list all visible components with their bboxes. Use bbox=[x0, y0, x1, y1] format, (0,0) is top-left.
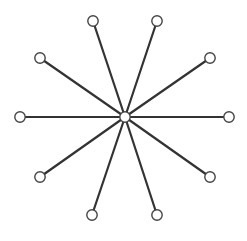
node-leaf-8 bbox=[35, 172, 45, 182]
node-leaf-5 bbox=[205, 172, 215, 182]
node-leaf-2 bbox=[152, 16, 162, 26]
node-leaf-3 bbox=[205, 53, 215, 63]
node-leaf-10 bbox=[35, 53, 45, 63]
node-leaf-1 bbox=[88, 16, 98, 26]
star-graph-diagram bbox=[0, 0, 247, 241]
node-leaf-7 bbox=[87, 210, 97, 220]
node-leaf-6 bbox=[152, 210, 162, 220]
node-leaf-4 bbox=[224, 112, 234, 122]
node-leaf-9 bbox=[15, 112, 25, 122]
node-hub bbox=[120, 112, 130, 122]
